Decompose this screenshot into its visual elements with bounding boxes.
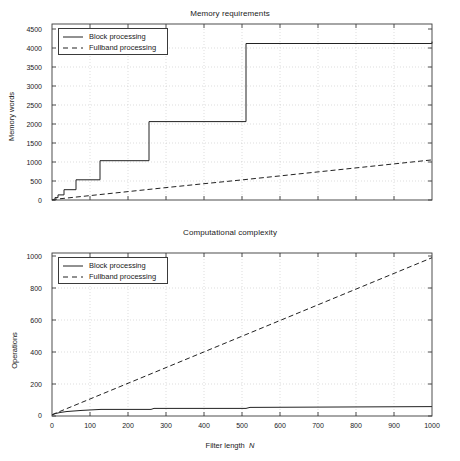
legend-label: Block processing xyxy=(89,32,146,41)
legend-memory: Block processing Fullband processing xyxy=(58,28,168,55)
legend-label: Fullband processing xyxy=(89,43,156,52)
legend-item-block-processing: Block processing xyxy=(62,260,163,271)
legend-complexity: Block processing Fullband processing xyxy=(58,257,168,284)
panel-computational-complexity: Computational complexity Operations 0 20… xyxy=(0,226,460,461)
legend-item-fullband-processing: Fullband processing xyxy=(62,271,163,282)
legend-item-fullband-processing: Fullband processing xyxy=(62,42,163,53)
legend-label: Block processing xyxy=(89,261,146,270)
legend-line-dashed-icon xyxy=(62,44,84,52)
legend-label: Fullband processing xyxy=(89,272,156,281)
legend-line-solid-icon xyxy=(62,262,84,270)
panel-memory-requirements: Memory requirements Memory words 0 500 1… xyxy=(0,0,460,228)
legend-item-block-processing: Block processing xyxy=(62,31,163,42)
legend-line-dashed-icon xyxy=(62,273,84,281)
figure-canvas: Memory requirements Memory words 0 500 1… xyxy=(0,0,460,461)
legend-line-solid-icon xyxy=(62,33,84,41)
